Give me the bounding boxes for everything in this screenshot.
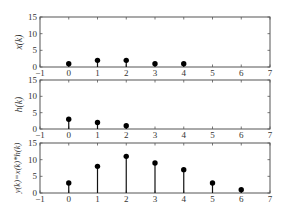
x-tick-label: 2 xyxy=(124,130,129,140)
y-tick-label: 10 xyxy=(28,155,38,165)
y-axis-label: x(k) xyxy=(14,35,25,51)
x-tick-label: 3 xyxy=(153,194,158,204)
y-tick-label: 0 xyxy=(33,124,38,134)
x-tick-label: 5 xyxy=(210,194,215,204)
x-tick-label: 3 xyxy=(153,68,158,78)
x-tick-label: 7 xyxy=(268,130,273,140)
panel-h-impulse-response: −101234567051015h(k) xyxy=(14,75,273,140)
stem-plot-figure: −101234567051015x(k) −101234567051015h(k… xyxy=(0,0,282,218)
axes-box xyxy=(40,80,270,129)
x-tick-label: 6 xyxy=(239,194,244,204)
x-tick-label: 4 xyxy=(182,194,187,204)
stem-marker xyxy=(181,61,186,66)
y-tick-label: 5 xyxy=(33,108,38,118)
stem-marker xyxy=(124,58,129,63)
x-tick-label: 5 xyxy=(210,68,215,78)
x-tick-label: 0 xyxy=(67,68,72,78)
x-tick-label: 4 xyxy=(182,130,187,140)
stem-marker xyxy=(152,61,157,66)
x-tick-label: 1 xyxy=(95,130,100,140)
panel-y-convolution-output: −101234567051015y(k)=x(k)*h(k) xyxy=(12,138,273,204)
stem-marker xyxy=(66,61,71,66)
stem-marker xyxy=(152,160,157,165)
x-tick-label: 2 xyxy=(124,194,129,204)
stem-marker xyxy=(239,187,244,192)
x-tick-label: 7 xyxy=(268,68,273,78)
y-tick-label: 10 xyxy=(28,91,38,101)
y-tick-label: 15 xyxy=(28,138,38,148)
y-tick-label: 5 xyxy=(33,171,38,181)
figure-canvas: −101234567051015x(k) −101234567051015h(k… xyxy=(0,0,282,218)
x-tick-label: 1 xyxy=(95,194,100,204)
y-axis-label: h(k) xyxy=(14,97,25,112)
stem-marker xyxy=(95,120,100,125)
x-tick-label: 0 xyxy=(67,194,72,204)
x-tick-label: 6 xyxy=(239,130,244,140)
stem-marker xyxy=(124,154,129,159)
x-tick-label: 7 xyxy=(268,194,273,204)
x-tick-label: 3 xyxy=(153,130,158,140)
y-axis-label: y(k)=x(k)*h(k) xyxy=(12,143,22,195)
x-tick-label: 0 xyxy=(67,130,72,140)
y-tick-label: 10 xyxy=(28,29,38,39)
x-tick-label: 5 xyxy=(210,130,215,140)
x-tick-label: 2 xyxy=(124,68,129,78)
stem-marker xyxy=(66,180,71,185)
y-tick-label: 0 xyxy=(33,188,38,198)
panel-x-signal: −101234567051015x(k) xyxy=(14,12,273,78)
stem-marker xyxy=(124,123,129,128)
y-tick-label: 0 xyxy=(33,62,38,72)
x-tick-label: 4 xyxy=(182,68,187,78)
x-tick-label: 1 xyxy=(95,68,100,78)
y-tick-label: 5 xyxy=(33,45,38,55)
stem-marker xyxy=(95,164,100,169)
y-tick-label: 15 xyxy=(28,12,38,22)
axes-box xyxy=(40,17,270,67)
stem-marker xyxy=(95,58,100,63)
stem-marker xyxy=(66,117,71,122)
stem-marker xyxy=(210,180,215,185)
y-tick-label: 15 xyxy=(28,75,38,85)
stem-marker xyxy=(181,167,186,172)
x-tick-label: 6 xyxy=(239,68,244,78)
